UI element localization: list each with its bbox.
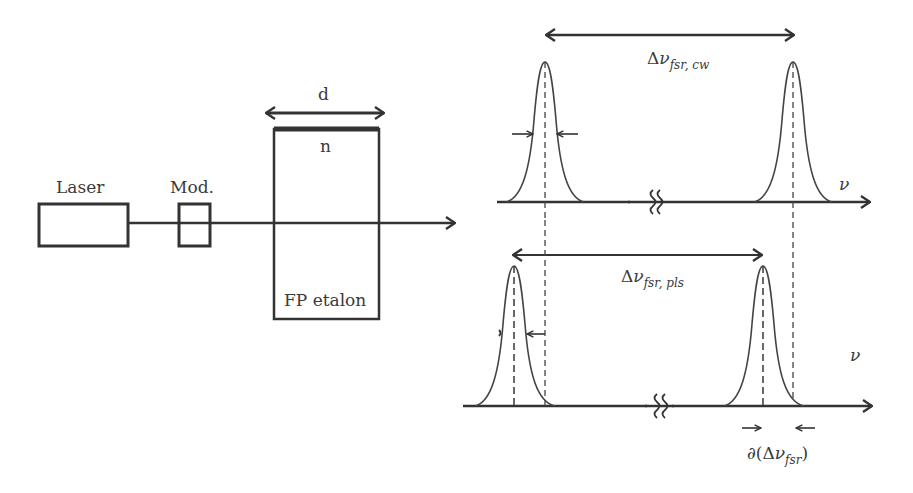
shift-suffix: ) [801,443,808,463]
modulator-box [179,204,210,246]
delta-symbol: Δ [621,266,633,286]
cw-peak-1 [506,62,584,220]
fsr-shift-label: ∂(Δνfsr) [747,445,808,462]
pulsed-peak-2 [724,266,804,406]
nu-symbol: ν [659,48,669,68]
refractive-index-label: n [320,138,331,155]
diagram-canvas [0,0,913,493]
pulsed-axis-label: ν [850,347,860,364]
pulsed-peak-1 [475,266,555,406]
cw-fsr-label: Δνfsr, cw [647,50,709,67]
etalon-label: FP etalon [284,292,366,309]
shift-subscript: fsr [785,453,801,467]
pulsed-fsr-subscript: fsr, pls [644,276,684,290]
shift-prefix: ∂(Δ [747,443,775,463]
pulsed-fsr-label: Δνfsr, pls [621,268,684,285]
laser-box [39,204,128,246]
pulsed-linewidth-arrows [499,330,545,336]
cw-axis-break-icon [628,190,663,214]
thickness-label: d [318,86,329,103]
laser-label: Laser [56,179,104,196]
nu-symbol: ν [775,443,785,463]
cw-axis-label: ν [839,176,849,193]
cw-fsr-subscript: fsr, cw [670,58,710,72]
pulsed-axis-break-icon [645,394,674,418]
cw-peak-2 [754,62,832,400]
nu-symbol: ν [633,266,643,286]
modulator-label: Mod. [170,179,214,196]
delta-symbol: Δ [647,48,659,68]
